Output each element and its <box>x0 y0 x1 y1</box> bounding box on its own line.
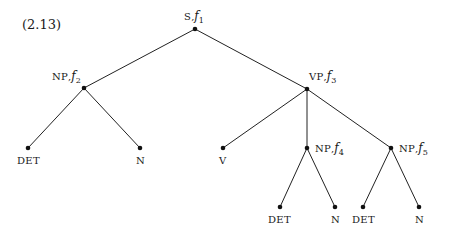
leaf-n4: N <box>331 214 340 226</box>
node-np4: NP,f4 <box>315 142 344 159</box>
node-np5: NP,f5 <box>399 142 428 159</box>
leaf-n1: N <box>136 155 145 167</box>
node-vp3: VP,f3 <box>309 70 336 87</box>
leaf-v: V <box>219 155 227 167</box>
node-np2: NP,f2 <box>52 70 81 87</box>
leaf-det1: DET <box>17 155 40 167</box>
leaf-n5: N <box>415 214 424 226</box>
leaf-det4: DET <box>268 214 291 226</box>
node-s: S,f1 <box>184 10 204 27</box>
tree-edges <box>0 0 450 236</box>
leaf-det5: DET <box>352 214 375 226</box>
